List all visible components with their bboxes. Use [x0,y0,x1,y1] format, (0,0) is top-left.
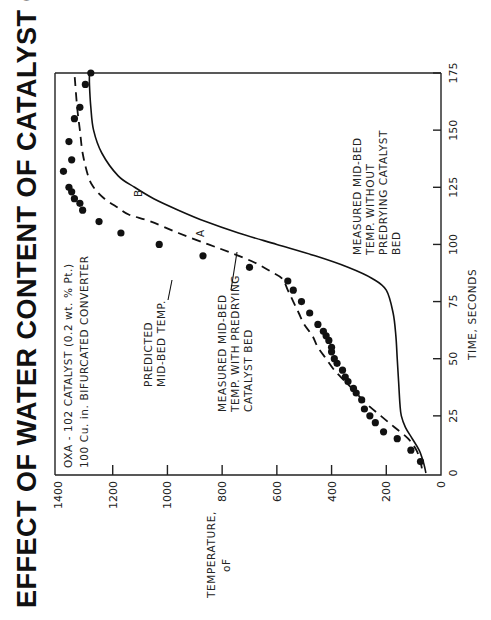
curve-b-without-predrying [89,73,426,473]
y-tick-label: 800 [216,481,229,502]
x-axis-label: TIME, SECONDS [466,269,478,361]
predicted-point [358,396,365,403]
arrow-predicted [168,280,172,300]
predicted-point [71,195,78,202]
x-tick-label: 75 [447,295,460,309]
predicted-point [342,373,349,380]
y-tick-label: 200 [380,481,393,502]
series-layer [60,69,426,473]
predicted-point [314,321,321,328]
predicted-point [60,168,67,175]
y-tick-label: 400 [326,481,339,502]
predicted-point [407,447,414,454]
predicted-point [82,81,89,88]
label-with-1: MEASURED MID-BED [216,294,228,412]
y-tick-label: 600 [271,481,284,502]
chart-title: EFFECT OF WATER CONTENT OF CATALYST ON W… [12,0,42,608]
curve-a-label: A [194,229,206,237]
predicted-point [65,138,72,145]
predicted-point [95,218,102,225]
predicted-point [306,309,313,316]
label-measured-with: MEASURED MID-BED TEMP. WITH PREDRYING CA… [216,252,254,413]
label-without-2: TEMP. WITHOUT [364,164,376,256]
predicted-point [361,405,368,412]
predicted-point [320,328,327,335]
label-without-3: PREDRYING CATALYST [377,130,389,255]
y-axis-label: TEMPERATURE, [205,511,217,599]
predicted-point [394,435,401,442]
predicted-point [76,104,83,111]
predicted-point [156,241,163,248]
predicted-point [284,277,291,284]
predicted-point [87,69,94,76]
label-without-4: BED [390,231,402,255]
predicted-point [117,229,124,236]
predicted-point [199,252,206,259]
x-tick-label: 25 [447,409,460,423]
label-without-1: MEASURED MID-BED [351,137,363,255]
predicted-point [79,207,86,214]
label-with-2: TEMP. WITH PREDRYING [229,275,241,413]
x-tick-label: 50 [447,352,460,366]
predicted-point [417,458,424,465]
predicted-point [339,367,346,374]
x-tick-label: 125 [447,177,460,198]
annotation-line-2: 100 Cu. in. BIFURCATED CONVERTER [78,255,90,468]
x-tick-label: 150 [447,120,460,141]
predicted-point [65,184,72,191]
predicted-point [246,264,253,271]
x-tick-label: 100 [447,234,460,255]
x-axis-ticks: 0255075100125150175 [433,63,460,477]
predicted-point [331,355,338,362]
predicted-point [380,428,387,435]
predicted-point [350,385,357,392]
label-predicted-2: MID-BED TEMP. [155,300,167,387]
predicted-point [298,298,305,305]
predicted-point [328,344,335,351]
label-measured-without: MEASURED MID-BED TEMP. WITHOUT PREDRYING… [351,130,402,256]
label-predicted-1: PREDICTED [142,322,154,387]
predicted-point [68,156,75,163]
y-axis-unit: oF [220,558,232,572]
label-predicted: PREDICTED MID-BED TEMP. [142,280,172,387]
y-tick-label: 1000 [161,481,174,509]
rotated-figure: EFFECT OF WATER CONTENT OF CATALYST ON W… [0,0,491,620]
y-tick-label: 1400 [52,481,65,509]
y-axis-ticks: 0200400600800100012001400 [52,465,448,509]
y-tick-label: 1200 [107,481,120,509]
x-tick-label: 0 [447,470,460,477]
x-tick-label: 175 [447,63,460,84]
predicted-point [366,412,373,419]
predicted-point [71,115,78,122]
annotation-line-1: OXA - 102 CATALYST (0.2 wt. % Pt.) [62,263,74,468]
label-with-3: CATALYST BED [242,329,254,412]
annotation-box: OXA - 102 CATALYST (0.2 wt. % Pt.) 100 C… [62,255,90,468]
curve-b-label: B [132,189,144,197]
y-tick-label: 0 [435,481,448,488]
chart-svg: EFFECT OF WATER CONTENT OF CATALYST ON W… [0,0,491,620]
predicted-point [290,287,297,294]
predicted-point [372,419,379,426]
